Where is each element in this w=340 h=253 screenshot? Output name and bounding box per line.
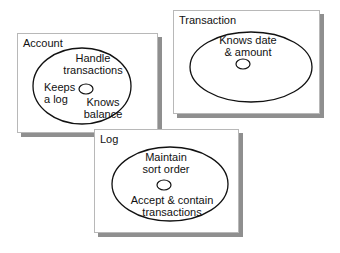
log-resp-maintain-line2: sort order <box>134 163 198 175</box>
log-resp-accept: Accept & contain transactions <box>124 194 220 218</box>
log-nucleus-icon <box>157 180 171 190</box>
log-resp-maintain: Maintain sort order <box>134 151 198 175</box>
log-resp-accept-line1: Accept & contain <box>124 194 220 206</box>
log-resp-maintain-line1: Maintain <box>134 151 198 163</box>
log-resp-accept-line2: transactions <box>124 206 220 218</box>
